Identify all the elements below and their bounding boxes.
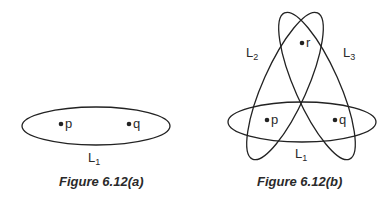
point-q-label: q — [133, 116, 140, 131]
line-l3-label: L3 — [343, 45, 355, 62]
diagram-canvas: p q L1 Figure 6.12(a) p q r L1 L2 L3 Fig… — [0, 0, 392, 201]
figure-b-caption: Figure 6.12(b) — [257, 174, 342, 189]
point-r-dot — [300, 41, 305, 46]
point-p-dot — [265, 118, 270, 123]
line-l1-label: L1 — [88, 150, 100, 167]
figure-b: p q r L1 L2 L3 Figure 6.12(b) — [228, 4, 376, 189]
point-q-label: q — [339, 112, 346, 127]
line-l2-label: L2 — [246, 45, 258, 62]
figure-a-caption: Figure 6.12(a) — [59, 174, 144, 189]
point-p-label: p — [271, 112, 278, 127]
line-l1-label: L1 — [295, 146, 307, 163]
figure-a: p q L1 Figure 6.12(a) — [22, 107, 170, 189]
point-q-dot — [127, 122, 132, 127]
line-l1-ellipse — [22, 107, 170, 145]
point-r-label: r — [306, 35, 311, 50]
line-l1-ellipse — [228, 102, 376, 142]
point-p-dot — [59, 122, 64, 127]
line-l2-ellipse — [232, 4, 337, 168]
point-p-label: p — [65, 116, 72, 131]
point-q-dot — [333, 118, 338, 123]
line-l3-ellipse — [264, 4, 369, 168]
